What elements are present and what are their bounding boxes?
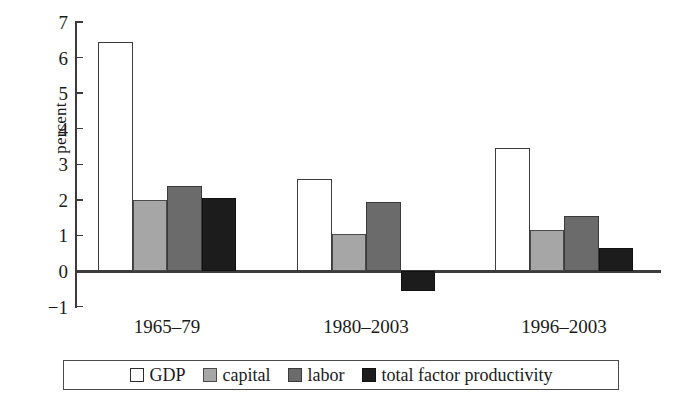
y-tick bbox=[75, 128, 83, 130]
x-category-label: 1965–79 bbox=[98, 316, 236, 338]
y-tick bbox=[75, 21, 83, 23]
legend-label: total factor productivity bbox=[382, 366, 553, 384]
bar-gdp-1996-2003 bbox=[495, 148, 530, 271]
legend-item-total-factor-productivity[interactable]: total factor productivity bbox=[362, 366, 553, 384]
bar-labor-1965-79 bbox=[167, 186, 202, 271]
y-tick-label: 4 bbox=[34, 119, 68, 138]
legend-swatch-icon bbox=[203, 368, 217, 382]
bar-chart: percent 76543210−1 1965–791980–20031996–… bbox=[0, 0, 682, 408]
y-tick-label: 6 bbox=[34, 48, 68, 67]
y-tick bbox=[75, 306, 83, 308]
bar-total-factor-productivity-1980-2003 bbox=[401, 271, 436, 291]
x-category-label: 1980–2003 bbox=[297, 316, 435, 338]
legend-label: GDP bbox=[150, 366, 186, 384]
y-tick bbox=[75, 199, 83, 201]
legend-item-labor[interactable]: labor bbox=[288, 366, 345, 384]
y-tick bbox=[75, 164, 83, 166]
y-tick-label: 1 bbox=[34, 226, 68, 245]
y-tick bbox=[75, 92, 83, 94]
y-tick bbox=[75, 235, 83, 237]
legend-swatch-icon bbox=[130, 368, 144, 382]
legend-label: capital bbox=[223, 366, 271, 384]
bar-capital-1980-2003 bbox=[332, 234, 367, 271]
legend-item-capital[interactable]: capital bbox=[203, 366, 271, 384]
y-tick-label: 5 bbox=[34, 84, 68, 103]
x-category-label: 1996–2003 bbox=[495, 316, 633, 338]
legend-item-gdp[interactable]: GDP bbox=[130, 366, 186, 384]
y-tick-label: 0 bbox=[34, 262, 68, 281]
chart-legend: GDPcapitallabortotal factor productivity bbox=[63, 360, 619, 390]
y-tick-label: 2 bbox=[34, 190, 68, 209]
bar-labor-1980-2003 bbox=[366, 202, 401, 271]
bar-total-factor-productivity-1996-2003 bbox=[599, 248, 634, 271]
bar-capital-1996-2003 bbox=[530, 230, 565, 271]
legend-label: labor bbox=[308, 366, 345, 384]
bar-gdp-1980-2003 bbox=[297, 179, 332, 271]
y-tick bbox=[75, 57, 83, 59]
legend-swatch-icon bbox=[288, 368, 302, 382]
bar-gdp-1965-79 bbox=[98, 42, 133, 271]
y-tick-label: 7 bbox=[34, 13, 68, 32]
bar-capital-1965-79 bbox=[133, 200, 168, 271]
bar-total-factor-productivity-1965-79 bbox=[202, 198, 237, 271]
legend-swatch-icon bbox=[362, 368, 376, 382]
bar-labor-1996-2003 bbox=[564, 216, 599, 271]
y-tick-label: 3 bbox=[34, 155, 68, 174]
y-tick-label: −1 bbox=[34, 297, 68, 316]
